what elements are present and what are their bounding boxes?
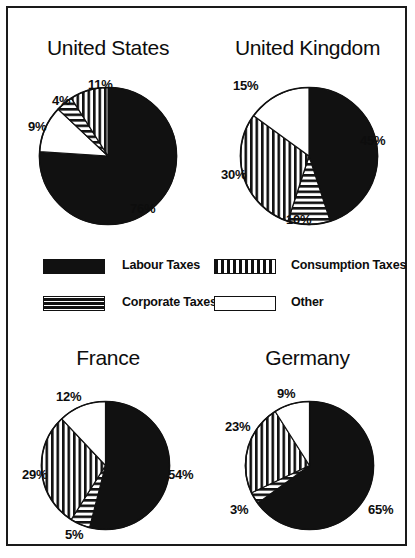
slice-label-uk-corporate: 10% [286,212,311,227]
figure-border: United States 11% 4% 9% 76% United Kingd… [6,6,407,546]
slice-label-us-other: 11% [88,77,113,92]
slice-label-de-other: 9% [277,386,295,401]
chart-title-france: France [8,346,208,370]
slice-label-fr-consumption: 29% [22,467,47,482]
slice-label-de-corporate: 3% [230,502,248,517]
slice-label-fr-other: 12% [56,389,81,404]
slice-label-us-labour: 76% [130,201,155,216]
legend-swatch-other [214,296,276,311]
pie-chart-germany [244,400,375,531]
slice-label-fr-labour: 54% [168,467,193,482]
slice-label-uk-other: 15% [233,78,258,93]
slice-label-de-consumption: 23% [225,419,250,434]
pie-chart-france [40,400,171,531]
legend-label-labour: Labour Taxes [122,258,200,272]
figure-caption [8,551,407,558]
chart-title-united-states: United States [8,36,208,60]
chart-title-united-kingdom: United Kingdom [206,36,409,60]
chart-title-germany: Germany [206,346,409,370]
slice-label-uk-consumption: 30% [221,167,246,182]
legend-swatch-labour [43,259,105,274]
slice-label-de-labour: 65% [368,502,393,517]
slice-label-us-consumption: 9% [28,119,46,134]
slice-label-fr-corporate: 5% [65,527,83,542]
legend-label-other: Other [291,295,323,309]
legend-swatch-consumption [214,259,276,274]
legend-swatch-corporate [43,296,105,311]
legend-label-consumption: Consumption Taxes [291,258,406,272]
slice-label-us-corporate: 4% [52,93,70,108]
legend: Labour Taxes Consumption Taxes Corporate… [8,256,409,326]
legend-label-corporate: Corporate Taxes [122,295,217,309]
pie-chart-united-kingdom [239,86,379,226]
slice-label-uk-labour: 45% [360,133,385,148]
